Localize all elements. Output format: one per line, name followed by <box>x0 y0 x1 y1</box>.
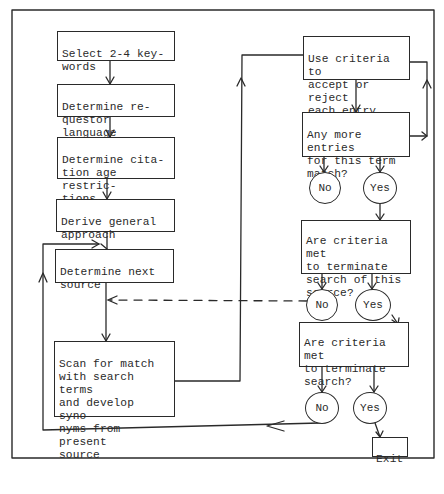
decision-terminate-source-yes: Yes <box>355 289 391 321</box>
step-derive-general-approach: Derive general approach <box>56 199 175 232</box>
decision-terminate-search: Are criteria met to terminate search? <box>299 322 409 367</box>
exit-label: Exit <box>376 453 403 465</box>
no-label: No <box>315 299 328 311</box>
step-determine-requestor-language: Determine re- questor language <box>57 84 175 117</box>
step-select-keywords: Select 2-4 key- words <box>57 31 175 61</box>
yes-label: Yes <box>370 182 390 194</box>
no-label: No <box>318 182 331 194</box>
flowchart-canvas: Select 2-4 key- words Determine re- ques… <box>0 0 444 494</box>
decision-more-entries-yes: Yes <box>363 172 397 204</box>
no-label: No <box>315 402 328 414</box>
decision-terminate-search-no: No <box>305 392 339 424</box>
decision-terminate-search-yes: Yes <box>353 392 387 424</box>
step-use-criteria: Use criteria to accept or reject each en… <box>303 36 410 80</box>
terminal-exit: Exit <box>372 437 408 457</box>
decision-terminate-source-no: No <box>306 289 338 321</box>
decision-terminate-source: Are criteria met to terminate search of … <box>301 220 411 274</box>
step-determine-next-source: Determine next source <box>55 249 174 283</box>
decision-more-entries: Any more entries for this term match? <box>302 112 410 157</box>
decision-more-entries-no: No <box>309 172 341 204</box>
yes-label: Yes <box>360 402 380 414</box>
yes-label: Yes <box>363 299 383 311</box>
step-scan-for-match: Scan for match with search terms and dev… <box>54 341 175 417</box>
step-determine-citation-age: Determine cita- tion age restric- tions <box>57 137 175 179</box>
